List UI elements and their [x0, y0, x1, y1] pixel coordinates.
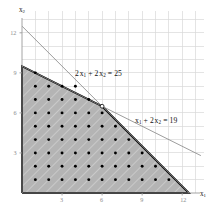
lattice-point	[34, 125, 37, 128]
lattice-point	[154, 178, 157, 181]
lattice-point	[34, 152, 37, 155]
lattice-point	[114, 152, 117, 155]
lattice-point	[74, 152, 77, 155]
y-tick-label: 12	[10, 29, 16, 36]
lattice-point	[114, 165, 117, 168]
lattice-point	[47, 152, 50, 155]
x-tick-label: 3	[60, 196, 63, 203]
lattice-point	[47, 138, 50, 141]
lattice-point	[61, 111, 64, 114]
lattice-point	[101, 152, 104, 155]
lattice-point	[127, 165, 130, 168]
x-tick-label: 9	[140, 196, 143, 203]
lattice-point	[87, 138, 90, 141]
lattice-point	[34, 165, 37, 168]
x-tick-label: 12	[180, 196, 186, 203]
lattice-point	[74, 125, 77, 128]
y-tick-label: 6	[14, 109, 17, 116]
lattice-point	[127, 178, 130, 181]
lattice-point	[127, 152, 130, 155]
lattice-point	[61, 125, 64, 128]
x-tick-label: 6	[100, 196, 103, 203]
x-axis-label-text: x1	[200, 190, 206, 198]
lattice-point	[87, 152, 90, 155]
lattice-point	[34, 98, 37, 101]
lattice-point	[61, 152, 64, 155]
lattice-point	[101, 165, 104, 168]
lattice-point	[47, 111, 50, 114]
lattice-point	[87, 111, 90, 114]
lattice-point	[47, 125, 50, 128]
lattice-point	[47, 98, 50, 101]
lattice-point	[47, 85, 50, 88]
y-tick-label: 3	[14, 149, 17, 156]
vertex-marker	[100, 104, 104, 108]
lattice-point	[61, 85, 64, 88]
optimal-vertex-marker	[100, 104, 104, 108]
lattice-point	[167, 178, 170, 181]
lattice-point	[141, 152, 144, 155]
lattice-point	[87, 165, 90, 168]
y-axis-label-text: x2	[19, 6, 25, 14]
lattice-point	[34, 138, 37, 141]
y-axis-label: x2	[19, 6, 25, 14]
lattice-point	[74, 98, 77, 101]
lattice-point	[74, 111, 77, 114]
lattice-point	[101, 125, 104, 128]
plot-canvas	[0, 0, 217, 216]
lattice-point	[87, 125, 90, 128]
lattice-point	[141, 178, 144, 181]
lattice-point	[74, 178, 77, 181]
lattice-point	[74, 138, 77, 141]
lattice-point	[61, 138, 64, 141]
lattice-point	[34, 111, 37, 114]
lattice-point	[87, 178, 90, 181]
linear-programming-figure: 3691236912 x2 x1 2 x1 + 2 x2 = 25 x1 + 2…	[0, 0, 217, 216]
lattice-point	[74, 165, 77, 168]
lattice-point	[87, 98, 90, 101]
lattice-point	[114, 178, 117, 181]
lattice-point	[114, 138, 117, 141]
lattice-point	[101, 111, 104, 114]
lattice-point	[141, 165, 144, 168]
lattice-point	[47, 178, 50, 181]
lattice-point	[74, 85, 77, 88]
lattice-point	[47, 165, 50, 168]
lattice-point	[61, 98, 64, 101]
constraint-label-2x1-2x2: 2 x1 + 2 x2 = 25	[75, 69, 122, 78]
lattice-point	[127, 138, 130, 141]
lattice-point	[114, 125, 117, 128]
y-tick-label: 9	[14, 69, 17, 76]
lattice-point	[101, 138, 104, 141]
lattice-point	[34, 85, 37, 88]
lattice-point	[61, 178, 64, 181]
x-axis-label: x1	[200, 190, 206, 198]
lattice-point	[154, 165, 157, 168]
lattice-point	[34, 178, 37, 181]
lattice-point	[101, 178, 104, 181]
constraint-label-x1-2x2: x1 + 2 x2 = 19	[135, 116, 177, 125]
lattice-point	[61, 165, 64, 168]
lattice-point	[34, 71, 37, 74]
